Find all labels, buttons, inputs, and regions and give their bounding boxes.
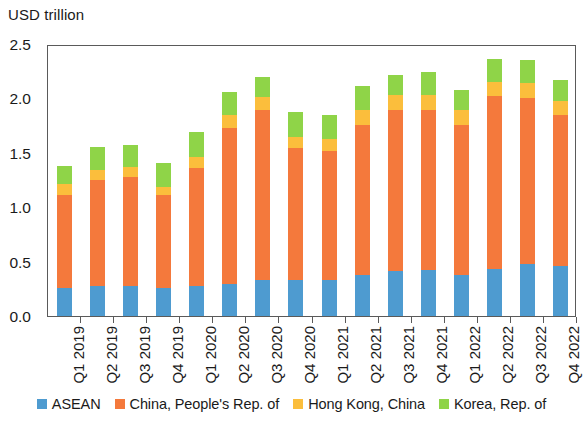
bar-segment[interactable] xyxy=(123,177,138,286)
bar-segment[interactable] xyxy=(57,166,72,184)
bar-segment[interactable] xyxy=(156,187,171,196)
bar-segment[interactable] xyxy=(189,157,204,168)
bar-segment[interactable] xyxy=(388,110,403,271)
bar-segment[interactable] xyxy=(520,98,535,263)
bar-column[interactable] xyxy=(57,166,72,316)
bar-segment[interactable] xyxy=(322,151,337,280)
bar-segment[interactable] xyxy=(454,275,469,316)
bar-column[interactable] xyxy=(487,59,502,316)
bar-segment[interactable] xyxy=(222,128,237,285)
bar-segment[interactable] xyxy=(288,112,303,137)
bar-segment[interactable] xyxy=(288,148,303,280)
bar-column[interactable] xyxy=(123,145,138,316)
legend-swatch-icon xyxy=(37,399,47,409)
bar-segment[interactable] xyxy=(156,288,171,316)
y-tick-label: 2.5 xyxy=(0,36,31,54)
legend-label: Hong Kong, China xyxy=(308,396,425,412)
bar-segment[interactable] xyxy=(520,264,535,316)
bar-segment[interactable] xyxy=(189,168,204,286)
bar-segment[interactable] xyxy=(520,60,535,83)
bar-segment[interactable] xyxy=(355,110,370,124)
bar-segment[interactable] xyxy=(90,147,105,170)
bar-segment[interactable] xyxy=(222,284,237,316)
bar-segment[interactable] xyxy=(288,137,303,149)
bar-segment[interactable] xyxy=(322,115,337,139)
bar-segment[interactable] xyxy=(355,86,370,110)
bar-segment[interactable] xyxy=(255,110,270,280)
bar-segment[interactable] xyxy=(388,75,403,96)
bar-segment[interactable] xyxy=(487,59,502,82)
legend-item[interactable]: China, People's Rep. of xyxy=(115,396,280,412)
bar-column[interactable] xyxy=(222,92,237,316)
bar-column[interactable] xyxy=(355,86,370,316)
legend-item[interactable]: Hong Kong, China xyxy=(293,396,425,412)
y-tick-label: 0.0 xyxy=(0,308,31,326)
bar-segment[interactable] xyxy=(421,270,436,316)
bar-segment[interactable] xyxy=(123,286,138,316)
x-tick-mark xyxy=(245,317,246,323)
bar-segment[interactable] xyxy=(222,92,237,115)
bar-column[interactable] xyxy=(189,132,204,316)
legend-item[interactable]: ASEAN xyxy=(37,396,101,412)
bar-column[interactable] xyxy=(520,60,535,316)
bar-segment[interactable] xyxy=(255,97,270,110)
bar-segment[interactable] xyxy=(487,82,502,96)
bar-column[interactable] xyxy=(421,72,436,316)
bar-segment[interactable] xyxy=(123,145,138,167)
bar-segment[interactable] xyxy=(189,132,204,157)
bar-segment[interactable] xyxy=(355,275,370,316)
bar-segment[interactable] xyxy=(57,184,72,195)
bar-segment[interactable] xyxy=(487,269,502,316)
bar-segment[interactable] xyxy=(322,139,337,151)
bar-segment[interactable] xyxy=(123,167,138,177)
bar-column[interactable] xyxy=(90,147,105,316)
bar-segment[interactable] xyxy=(553,80,568,101)
bar-segment[interactable] xyxy=(255,77,270,98)
legend-label: Korea, Rep. of xyxy=(454,396,546,412)
bar-segment[interactable] xyxy=(288,280,303,316)
bar-segment[interactable] xyxy=(255,280,270,316)
x-tick-mark xyxy=(543,317,544,323)
bar-segment[interactable] xyxy=(454,90,469,111)
bar-segment[interactable] xyxy=(553,266,568,316)
legend-swatch-icon xyxy=(293,399,303,409)
bar-segment[interactable] xyxy=(421,110,436,270)
bar-segment[interactable] xyxy=(222,115,237,128)
bar-segment[interactable] xyxy=(421,95,436,110)
bar-segment[interactable] xyxy=(90,180,105,286)
bar-segment[interactable] xyxy=(388,95,403,110)
bar-segment[interactable] xyxy=(553,115,568,266)
bar-segment[interactable] xyxy=(189,286,204,316)
bar-column[interactable] xyxy=(553,80,568,316)
bar-segment[interactable] xyxy=(454,125,469,275)
x-tick-mark xyxy=(345,317,346,323)
bar-segment[interactable] xyxy=(454,110,469,124)
bar-segment[interactable] xyxy=(156,163,171,187)
legend-item[interactable]: Korea, Rep. of xyxy=(439,396,546,412)
bar-segment[interactable] xyxy=(487,96,502,269)
x-tick-mark xyxy=(411,317,412,323)
bar-segment[interactable] xyxy=(355,125,370,275)
bar-segment[interactable] xyxy=(322,280,337,316)
bar-segment[interactable] xyxy=(388,271,403,316)
bar-segment[interactable] xyxy=(553,101,568,115)
y-tick-label: 0.5 xyxy=(0,254,31,272)
bar-column[interactable] xyxy=(255,77,270,316)
bar-segment[interactable] xyxy=(57,288,72,316)
bar-column[interactable] xyxy=(322,115,337,316)
bar-segment[interactable] xyxy=(520,83,535,98)
bar-segment[interactable] xyxy=(90,286,105,316)
bar-column[interactable] xyxy=(156,163,171,316)
bar-column[interactable] xyxy=(288,112,303,317)
bar-segment[interactable] xyxy=(156,195,171,287)
bar-column[interactable] xyxy=(454,90,469,316)
bar-segment[interactable] xyxy=(57,195,72,287)
x-tick-mark xyxy=(212,317,213,323)
x-tick-mark xyxy=(477,317,478,323)
bar-column[interactable] xyxy=(388,75,403,317)
legend-label: China, People's Rep. of xyxy=(130,396,280,412)
bars-layer xyxy=(48,46,575,316)
bar-segment[interactable] xyxy=(421,72,436,95)
bar-segment[interactable] xyxy=(90,170,105,180)
x-tick-mark xyxy=(312,317,313,323)
